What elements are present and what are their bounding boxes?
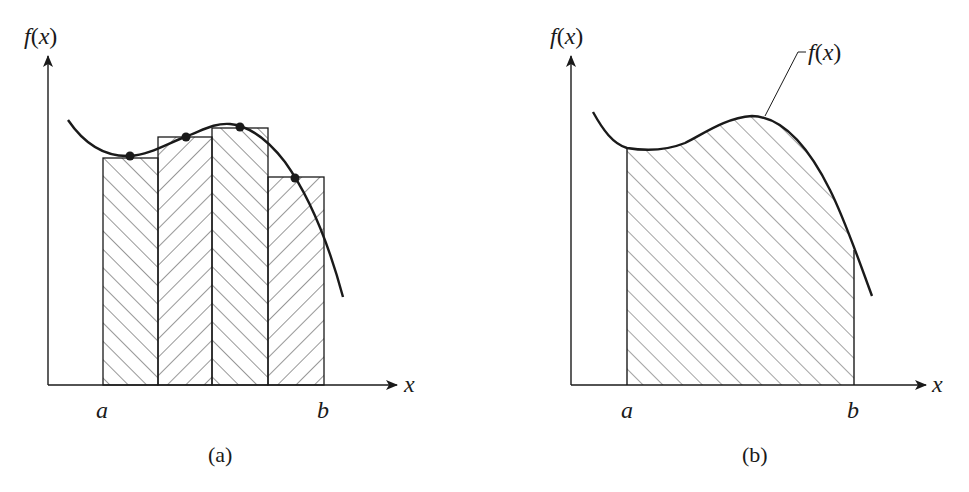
rectangle-4 (268, 177, 324, 385)
curve-callout-leader (765, 52, 806, 116)
rectangle-3 (212, 128, 268, 385)
panel-b: f(x) f(x) x a b (b) (550, 23, 943, 467)
y-axis-label: f(x) (24, 23, 57, 49)
lower-bound-label: a (96, 397, 108, 423)
x-axis-label: x (931, 371, 943, 397)
lower-bound-label: a (621, 397, 633, 423)
figure-canvas: f(x) x a b (a) f(x) f(x) x a b (b) (0, 0, 969, 492)
rectangle-1 (103, 158, 158, 385)
upper-bound-label: b (317, 397, 329, 423)
area-under-curve (627, 116, 854, 385)
sample-point-4 (291, 174, 300, 183)
sample-point-1 (126, 152, 135, 161)
upper-bound-label: b (847, 397, 859, 423)
rectangle-2 (158, 137, 212, 385)
sample-point-2 (182, 133, 191, 142)
panel-a: f(x) x a b (a) (24, 23, 415, 467)
curve-callout-label: f(x) (808, 39, 841, 65)
panel-caption: (a) (208, 442, 232, 467)
x-axis-label: x (403, 371, 415, 397)
y-axis-label: f(x) (550, 23, 583, 49)
panel-caption: (b) (742, 442, 768, 467)
sample-point-3 (236, 123, 245, 132)
riemann-rectangles (103, 128, 324, 385)
